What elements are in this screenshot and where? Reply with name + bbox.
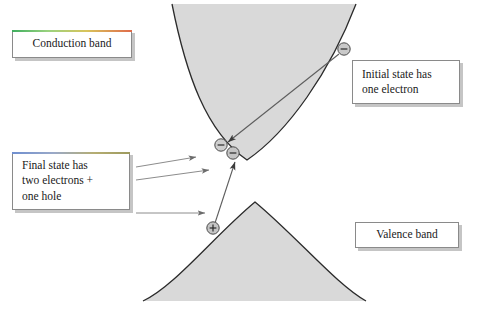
electron-final-2 xyxy=(227,147,239,159)
callout-valence-band-label: Valence band xyxy=(376,227,438,242)
electron-final-1 xyxy=(215,139,227,151)
conduction-band-shape xyxy=(172,4,356,160)
callout-conduction-band-label: Conduction band xyxy=(33,36,112,51)
callout-initial-state: Initial state has one electron xyxy=(352,60,460,104)
callout-initial-state-label: Initial state has one electron xyxy=(362,67,432,97)
excitation-arrow xyxy=(215,162,235,223)
callout-conduction-band: Conduction band xyxy=(12,30,132,58)
pointer-arrow-electron-1 xyxy=(136,157,196,167)
electron-initial xyxy=(338,43,350,55)
pointer-arrow-electron-2 xyxy=(136,170,209,180)
band-diagram-figure: Conduction band Final state has two elec… xyxy=(0,0,478,315)
valence-band-shape xyxy=(143,202,366,301)
hole-particle xyxy=(207,222,219,234)
callout-final-state-label: Final state has two electrons + one hole xyxy=(22,158,93,204)
callout-valence-band: Valence band xyxy=(355,222,459,248)
callout-final-state: Final state has two electrons + one hole xyxy=(12,152,130,210)
